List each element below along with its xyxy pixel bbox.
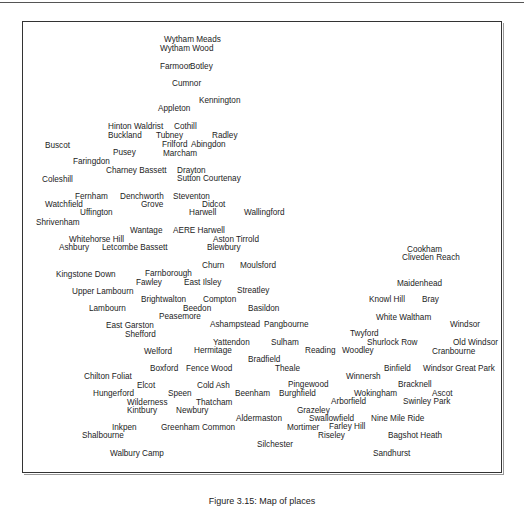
place-label: East Garston bbox=[106, 321, 154, 330]
place-label: Mortimer bbox=[287, 423, 319, 432]
place-label: Harwell bbox=[189, 208, 216, 217]
place-label: Tubney bbox=[156, 131, 183, 140]
place-label: Kennington bbox=[199, 96, 240, 105]
place-label: Marcham bbox=[163, 149, 197, 158]
place-label: Cumnor bbox=[172, 79, 201, 88]
place-label: Sutton Courtenay bbox=[177, 174, 241, 183]
place-label: Abingdon bbox=[191, 140, 226, 149]
place-label: Appleton bbox=[158, 104, 190, 113]
place-label: Shurlock Row bbox=[367, 338, 418, 347]
place-label: Churn bbox=[202, 261, 224, 270]
place-label: Pangbourne bbox=[264, 320, 309, 329]
place-label: Shefford bbox=[125, 330, 156, 339]
place-label: Twyford bbox=[350, 329, 379, 338]
place-label: Blewbury bbox=[207, 243, 241, 252]
place-label: Frilford bbox=[162, 140, 187, 149]
place-label: Aldermaston bbox=[236, 414, 282, 423]
place-label: Nine Mile Ride bbox=[371, 414, 424, 423]
place-label: Wantage bbox=[130, 226, 162, 235]
place-label: Old Windsor bbox=[453, 338, 498, 347]
place-label: Wytham Wood bbox=[160, 44, 213, 53]
place-label: Welford bbox=[144, 347, 172, 356]
place-label: Windsor bbox=[450, 320, 480, 329]
place-label: Windsor Great Park bbox=[423, 364, 495, 373]
place-label: Lambourn bbox=[89, 304, 126, 313]
place-label: Swinley Park bbox=[403, 397, 450, 406]
place-label: Kingstone Down bbox=[56, 270, 116, 279]
place-label: Buscot bbox=[45, 141, 70, 150]
place-label: Hungerford bbox=[93, 389, 134, 398]
place-label: Buckland bbox=[108, 131, 142, 140]
place-label: Peasemore bbox=[159, 312, 201, 321]
place-label: Binfield bbox=[384, 364, 411, 373]
place-label: Wytham Meads bbox=[164, 35, 221, 44]
place-label: Fawley bbox=[136, 278, 162, 287]
place-label: Sulham bbox=[271, 338, 299, 347]
place-label: Uffington bbox=[80, 208, 113, 217]
place-label: Bagshot Heath bbox=[388, 431, 442, 440]
place-label: Shrivenham bbox=[36, 218, 80, 227]
place-label: Cliveden Reach bbox=[402, 253, 460, 262]
top-rule bbox=[0, 2, 524, 3]
place-label: Riseley bbox=[318, 431, 345, 440]
place-label: White Waltham bbox=[376, 313, 431, 322]
place-label: Hermitage bbox=[194, 346, 232, 355]
place-label: Botley bbox=[190, 62, 213, 71]
place-label: Faringdon bbox=[73, 157, 110, 166]
place-label: Pusey bbox=[113, 148, 136, 157]
place-label: Bradfield bbox=[248, 355, 280, 364]
place-label: Moulsford bbox=[240, 261, 276, 270]
place-label: Walbury Camp bbox=[110, 449, 164, 458]
place-label: Knowl Hill bbox=[369, 295, 405, 304]
place-label: Upper Lambourn bbox=[72, 287, 133, 296]
place-label: Cold Ash bbox=[197, 381, 230, 390]
place-label: Ashbury bbox=[59, 243, 89, 252]
place-label: Greenham Common bbox=[161, 423, 235, 432]
figure-caption: Figure 3.15: Map of places bbox=[0, 496, 524, 506]
place-label: Ashampstead bbox=[210, 320, 260, 329]
place-label: Shalbourne bbox=[82, 431, 124, 440]
place-label: Cranbourne bbox=[432, 347, 475, 356]
place-label: Elcot bbox=[137, 381, 155, 390]
place-label: Bracknell bbox=[398, 380, 432, 389]
place-label: Pingewood bbox=[288, 380, 329, 389]
place-label: Burghfield bbox=[279, 389, 316, 398]
place-label: Cothill bbox=[174, 122, 197, 131]
place-label: Radley bbox=[212, 131, 238, 140]
place-label: East Ilsley bbox=[184, 278, 221, 287]
place-label: Sandhurst bbox=[373, 449, 410, 458]
place-label: Kintbury bbox=[127, 406, 157, 415]
place-label: Arborfield bbox=[331, 397, 366, 406]
place-label: Silchester bbox=[257, 440, 293, 449]
place-label: Hinton Waldrist bbox=[108, 122, 163, 131]
place-label: Charney Bassett bbox=[106, 166, 167, 175]
place-label: Letcombe Bassett bbox=[102, 243, 168, 252]
place-label: Speen bbox=[168, 389, 192, 398]
place-label: Beenham bbox=[235, 389, 270, 398]
place-label: Brightwalton bbox=[141, 295, 186, 304]
place-label: Newbury bbox=[176, 406, 208, 415]
place-label: Streatley bbox=[237, 286, 269, 295]
place-label: Reading bbox=[305, 346, 336, 355]
place-label: Farnborough bbox=[145, 269, 192, 278]
place-label: Fence Wood bbox=[186, 364, 232, 373]
place-label: Theale bbox=[275, 364, 300, 373]
place-label: Maidenhead bbox=[397, 279, 442, 288]
place-label: AERE Harwell bbox=[173, 226, 225, 235]
place-label: Coleshill bbox=[42, 175, 73, 184]
place-label: Bray bbox=[422, 295, 439, 304]
place-label: Boxford bbox=[150, 364, 178, 373]
place-label: Basildon bbox=[248, 304, 279, 313]
place-label: Wallingford bbox=[244, 208, 285, 217]
place-label: Farley Hill bbox=[329, 422, 365, 431]
place-label: Farmoor bbox=[160, 62, 191, 71]
place-label: Grove bbox=[141, 200, 163, 209]
place-label: Winnersh bbox=[346, 372, 381, 381]
place-label: Chilton Foliat bbox=[84, 372, 132, 381]
place-label: Woodley bbox=[342, 346, 374, 355]
place-label: Watchfield bbox=[45, 200, 83, 209]
place-label: Compton bbox=[203, 295, 236, 304]
